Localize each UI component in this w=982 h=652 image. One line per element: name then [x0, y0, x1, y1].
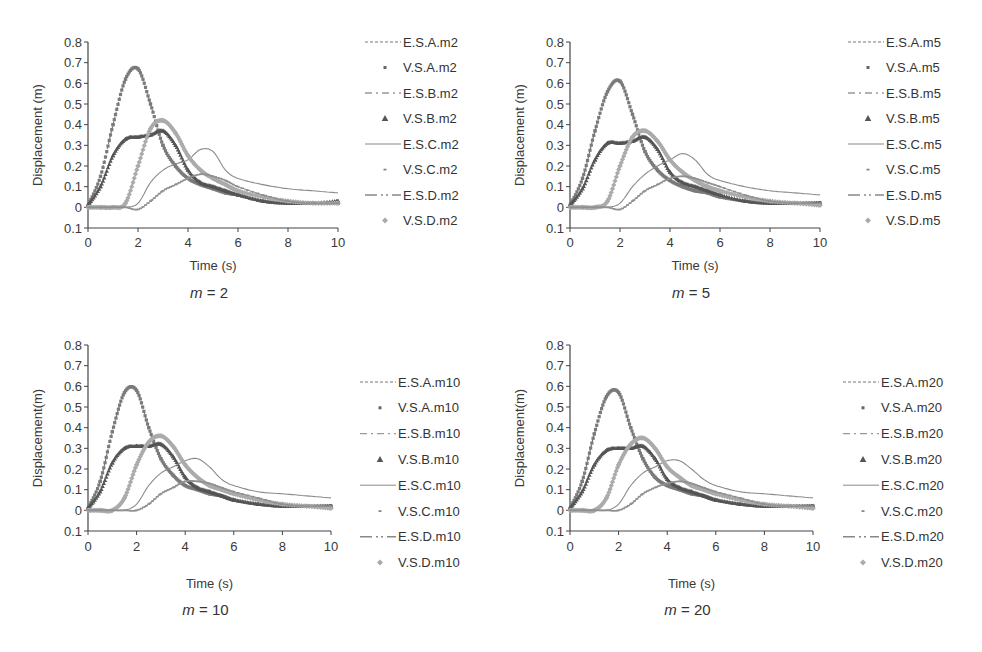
x-tick-label: 0 [84, 539, 91, 554]
legend-label: V.S.D.m5 [886, 213, 940, 228]
y-tick-label: 0.4 [64, 117, 82, 132]
legend-item: V.S.C.m20 [862, 504, 943, 519]
x-tick-label: 6 [234, 235, 241, 250]
legend-item: V.S.A.m5 [867, 60, 940, 75]
legend-item: E.S.A.m10 [360, 375, 460, 390]
x-tick-label: 4 [182, 539, 189, 554]
legend-label: E.S.B.m2 [403, 86, 458, 101]
legend-label: V.S.C.m10 [398, 504, 460, 519]
y-tick-label: 0.7 [64, 55, 82, 70]
x-tick-label: 6 [716, 235, 723, 250]
y-tick-label: 0.1 [64, 179, 82, 194]
legend-label: V.S.C.m2 [403, 162, 457, 177]
legend-item: E.S.D.m10 [360, 529, 461, 544]
legend-item: V.S.B.m5 [865, 111, 940, 126]
x-tick-label: 8 [284, 235, 291, 250]
x-tick-label: 0 [84, 235, 91, 250]
x-tick-label: 8 [766, 235, 773, 250]
x-tick-label: 4 [664, 539, 671, 554]
legend-item: E.S.B.m5 [848, 86, 941, 101]
y-axis-label: Displacement(m) [30, 389, 45, 487]
y-tick-label: 0.3 [64, 138, 82, 153]
y-tick-label: 0.1 [64, 524, 82, 539]
x-tick-label: 2 [616, 235, 623, 250]
y-tick-label: 0.5 [64, 97, 82, 112]
legend-label: V.S.B.m5 [886, 111, 940, 126]
legend-label: E.S.D.m20 [881, 529, 944, 544]
y-tick-label: 0.6 [546, 76, 564, 91]
chart-panel-20: 0.80.70.60.50.40.30.20.100.10246810Time … [512, 338, 944, 619]
legend-label: E.S.C.m2 [403, 137, 459, 152]
y-tick-label: 0.8 [64, 35, 82, 50]
legend-item: E.S.C.m20 [843, 478, 944, 493]
x-tick-label: 2 [134, 235, 141, 250]
x-tick-label: 4 [666, 235, 673, 250]
legend-item: E.S.B.m2 [365, 86, 458, 101]
legend-label: V.S.B.m20 [881, 452, 942, 467]
y-tick-label: 0.1 [546, 221, 564, 236]
y-tick-label: 0.7 [546, 358, 564, 373]
y-tick-label: 0.7 [64, 358, 82, 373]
legend-label: V.S.C.m5 [886, 162, 940, 177]
chart-panel-2: 0.80.70.60.50.40.30.20.100.10246810Time … [30, 35, 459, 302]
x-tick-label: 10 [324, 539, 338, 554]
y-tick-label: 0.1 [546, 179, 564, 194]
y-axis-label: Displacement (m) [30, 84, 45, 186]
legend-label: V.S.D.m2 [403, 213, 457, 228]
legend-diamond-marker-icon [382, 218, 388, 224]
y-tick-label: 0.5 [546, 97, 564, 112]
legend-item: E.S.B.m10 [360, 426, 460, 441]
y-tick-label: 0.4 [64, 420, 82, 435]
x-tick-label: 8 [279, 539, 286, 554]
x-tick-label: 10 [806, 539, 820, 554]
legend-item: E.S.D.m5 [848, 188, 942, 203]
legend-label: V.S.A.m10 [398, 400, 459, 415]
legend-label: E.S.C.m5 [886, 137, 942, 152]
y-tick-label: 0.3 [546, 138, 564, 153]
y-tick-label: 0.3 [546, 441, 564, 456]
legend-label: E.S.A.m5 [886, 35, 941, 50]
legend-dash-marker-icon [379, 510, 382, 512]
y-tick-label: 0.2 [64, 159, 82, 174]
legend-item: E.S.A.m2 [365, 35, 458, 50]
y-tick-label: 0.7 [546, 55, 564, 70]
chart-canvas: 0.80.70.60.50.40.30.20.100.10246810Time … [0, 0, 982, 652]
legend-label: E.S.A.m10 [398, 375, 460, 390]
y-tick-label: 0.5 [546, 400, 564, 415]
legend-triangle-marker-icon [382, 115, 389, 121]
y-tick-label: 0.5 [64, 400, 82, 415]
legend-item: V.S.D.m20 [860, 555, 943, 570]
x-axis-label: Time (s) [668, 576, 715, 591]
y-tick-label: 0 [557, 200, 564, 215]
legend-label: V.S.D.m20 [881, 555, 943, 570]
x-tick-label: 0 [566, 539, 573, 554]
legend-item: E.S.A.m5 [848, 35, 941, 50]
x-axis-label: Time (s) [671, 258, 718, 273]
legend-label: V.S.C.m20 [881, 504, 943, 519]
legend-triangle-marker-icon [865, 115, 872, 121]
legend: E.S.A.m2V.S.A.m2E.S.B.m2V.S.B.m2E.S.C.m2… [365, 35, 459, 229]
legend-item: V.S.B.m20 [860, 452, 942, 467]
y-tick-label: 0.8 [546, 35, 564, 50]
legend-item: E.S.B.m20 [843, 426, 943, 441]
y-axis-label: Displacement (m) [512, 84, 527, 186]
legend-label: V.S.B.m2 [403, 111, 457, 126]
x-tick-label: 8 [761, 539, 768, 554]
legend-item: V.S.C.m5 [867, 162, 941, 177]
legend-diamond-marker-icon [865, 218, 871, 224]
legend-item: V.S.D.m2 [382, 213, 457, 228]
legend-dash-marker-icon [867, 169, 870, 171]
legend-item: V.S.C.m2 [384, 162, 458, 177]
panel-caption: m = 5 [672, 284, 710, 301]
legend: E.S.A.m20V.S.A.m20E.S.B.m20V.S.B.m20E.S.… [843, 375, 944, 571]
legend-square-marker-icon [867, 66, 870, 69]
legend-item: V.S.C.m10 [379, 504, 460, 519]
x-tick-label: 10 [331, 235, 345, 250]
legend-item: V.S.A.m20 [862, 400, 942, 415]
legend-square-marker-icon [384, 66, 387, 69]
legend-label: V.S.B.m10 [398, 452, 459, 467]
legend-dash-marker-icon [384, 169, 387, 171]
legend-item: V.S.B.m2 [382, 111, 457, 126]
chart-panel-10: 0.80.70.60.50.40.30.20.100.10246810Time … [30, 338, 461, 619]
y-tick-label: 0.1 [546, 524, 564, 539]
